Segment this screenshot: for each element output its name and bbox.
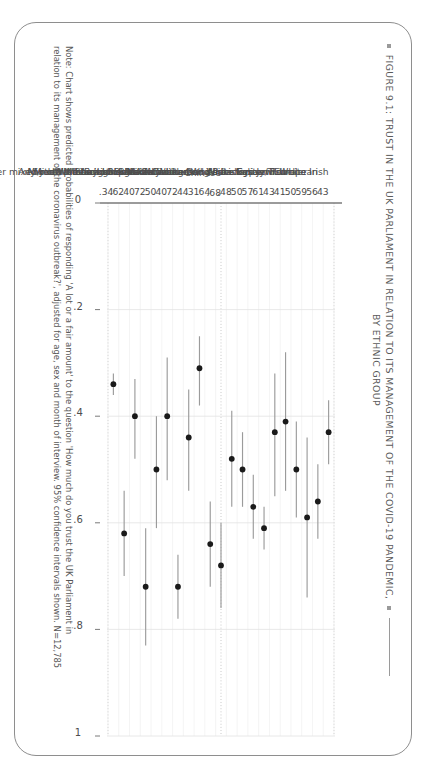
square-bullet-icon <box>388 44 392 48</box>
rotated-figure-stage: FIGURE 9.1: TRUST IN THE UK PARLIAMENT I… <box>0 0 426 778</box>
figure-title: FIGURE 9.1: TRUST IN THE UK PARLIAMENT I… <box>370 40 396 680</box>
figure-note: Note: Chart shows predicted probabilitie… <box>51 46 74 736</box>
square-bullet-icon <box>388 606 392 610</box>
figure-title-text-1: FIGURE 9.1: TRUST IN THE UK PARLIAMENT I… <box>384 55 395 600</box>
figure-note-line-1: Note: Chart shows predicted probabilitie… <box>62 46 74 736</box>
figure-note-line-2: relation to its management of the corona… <box>51 46 63 736</box>
figure-title-line-2: BY ETHNIC GROUP <box>370 40 383 680</box>
title-rule-decoration <box>389 618 390 676</box>
figure-title-line-1: FIGURE 9.1: TRUST IN THE UK PARLIAMENT I… <box>383 40 396 680</box>
